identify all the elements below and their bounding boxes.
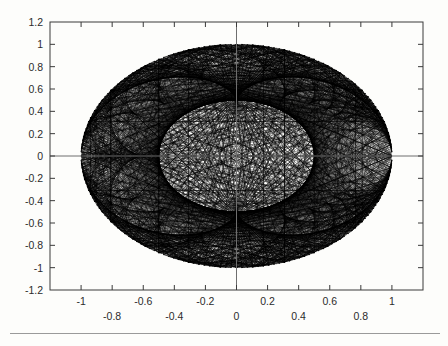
- x-tick-label-row1: -1: [76, 295, 85, 307]
- x-tick-label-row2: -0.8: [103, 310, 121, 322]
- x-tick-label-row1: -0.6: [134, 295, 152, 307]
- plot-canvas: 1.210.80.60.40.20-0.2-0.4-0.6-0.8-1-1.2-…: [0, 0, 448, 346]
- y-tick-label: -0.8: [25, 239, 43, 251]
- footer-divider: [10, 333, 440, 334]
- x-tick-label-row1: 0.6: [322, 295, 337, 307]
- y-tick-label: 0.8: [28, 61, 43, 73]
- figure-root: 1.210.80.60.40.20-0.2-0.4-0.6-0.8-1-1.2-…: [0, 0, 448, 346]
- y-tick-label: 1.2: [28, 16, 43, 28]
- x-tick-label-row2: -0.4: [165, 310, 183, 322]
- x-tick-label-row1: 0.2: [260, 295, 275, 307]
- y-tick-label: 0.6: [28, 83, 43, 95]
- y-tick-label: 0.2: [28, 128, 43, 140]
- x-tick-label-row2: 0.4: [291, 310, 306, 322]
- x-tick-label-row2: 0: [234, 310, 240, 322]
- y-tick-label: -1.2: [25, 284, 43, 296]
- y-tick-label: 1: [37, 38, 43, 50]
- y-tick-label: -0.6: [25, 217, 43, 229]
- y-tick-label: 0.4: [28, 105, 43, 117]
- y-tick-label: 0: [37, 150, 43, 162]
- y-tick-label: -1: [34, 262, 43, 274]
- x-tick-label-row1: -0.2: [196, 295, 214, 307]
- x-ticklabels-group: -1-0.6-0.20.20.61-0.8-0.400.40.8: [76, 295, 395, 322]
- zero-axes-group: [50, 22, 423, 290]
- x-tick-label-row1: 1: [389, 295, 395, 307]
- y-ticklabels-group: 1.210.80.60.40.20-0.2-0.4-0.6-0.8-1-1.2: [25, 16, 43, 296]
- y-tick-label: -0.4: [25, 195, 43, 207]
- y-tick-label: -0.2: [25, 172, 43, 184]
- x-tick-label-row2: 0.8: [354, 310, 369, 322]
